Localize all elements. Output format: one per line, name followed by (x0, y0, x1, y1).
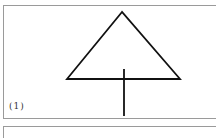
triangle-diagram (0, 0, 216, 138)
triangle-shape (67, 12, 180, 79)
panel-label: (1) (9, 101, 25, 111)
